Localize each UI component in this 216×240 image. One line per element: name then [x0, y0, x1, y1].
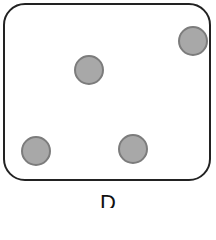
dot-circle	[74, 55, 104, 85]
dot-circle	[21, 136, 51, 166]
dot-circle	[178, 26, 208, 56]
dot-circle	[118, 134, 148, 164]
figure-label: D	[0, 192, 216, 208]
